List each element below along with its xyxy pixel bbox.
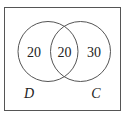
d-only-value: 20 <box>27 45 41 60</box>
c-only-value: 30 <box>87 45 101 60</box>
venn-diagram: 20 20 30 D C <box>0 0 126 115</box>
intersection-value: 20 <box>58 45 72 60</box>
set-c-label: C <box>91 86 101 101</box>
set-d-label: D <box>23 86 34 101</box>
